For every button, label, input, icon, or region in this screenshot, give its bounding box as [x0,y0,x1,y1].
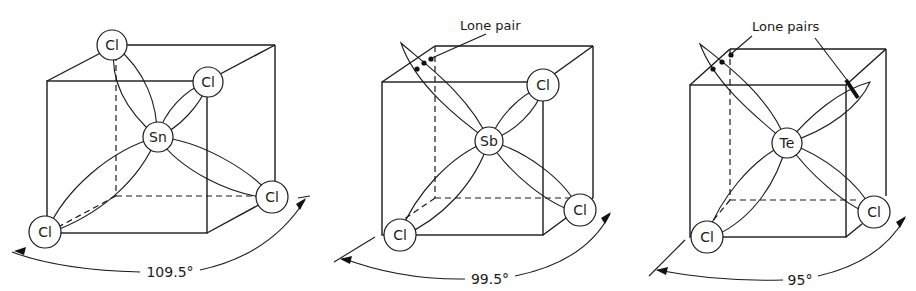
atom-cl-top: Cl [97,30,127,60]
atom-te-center: Te [772,128,802,158]
atom-cl-lower-left: Cl [691,221,723,253]
lone-pair-electron-icon [421,60,426,65]
cube-edge-tr [846,49,886,85]
atom-cl-upper-right: Cl [527,69,559,101]
svg-text:Cl: Cl [265,189,279,205]
lone-pair-label: Lone pairs [752,19,820,34]
cube-hidden-diagonal [712,200,730,222]
svg-text:Cl: Cl [867,204,881,220]
svg-text:Cl: Cl [700,229,714,245]
bond-angle-label: 109.5° [146,264,193,280]
lone-pair-electron-icon [846,80,858,98]
lobe-lower-left [707,143,787,238]
arrowhead-right-icon [296,198,306,210]
panel-sbcl3: Lone pair Cl Cl Cl Sb 99.5° [334,18,611,287]
lone-pair-electron-icon [710,66,715,71]
panel-sncl4: Cl Cl Cl Cl Sn 109.5° [12,30,310,280]
lone-pair-leader-line [731,36,752,54]
svg-text:Te: Te [779,135,795,151]
svg-text:Cl: Cl [105,37,119,53]
lobe-lower-right [489,141,578,212]
atom-cl-lower-right: Cl [858,196,890,228]
cube-hidden-diagonal [400,198,435,222]
lone-pair-electron-icon [414,66,419,71]
svg-text:Sn: Sn [149,129,167,145]
lobe-lower-left [400,141,489,236]
vsepr-cube-diagram: Cl Cl Cl Cl Sn 109.5° [0,0,916,291]
lobe-lone-pair [401,43,489,141]
lobe-lower-left [47,137,157,233]
atom-cl-upper-right: Cl [193,67,223,97]
atom-cl-lower-right: Cl [256,181,288,213]
svg-text:Cl: Cl [393,227,407,243]
atom-cl-lower-left: Cl [29,216,61,248]
lone-pair-electron-icon [719,59,724,64]
lobe-lone-pair [700,44,787,143]
cube-edge-tl [690,49,730,85]
svg-text:Cl: Cl [536,77,550,93]
arrowhead-left-icon [656,267,668,275]
svg-text:Cl: Cl [201,74,215,90]
lone-pair-electron-icon [728,52,733,57]
lobe-lower-right [157,137,272,198]
arrowhead-right-icon [601,212,611,224]
bond-angle-arc: 99.5° [334,212,611,287]
bond-angle-label: 95° [788,272,813,288]
lone-pair-label: Lone pair [460,18,521,33]
lobe-lower-right [787,143,872,214]
cube-edge-tl [382,46,435,82]
lone-pair-leader-line [815,38,847,80]
atom-sn-center: Sn [143,122,173,152]
cube-edge-br [846,224,862,237]
atom-cl-lower-right: Cl [564,194,596,226]
panel-tecl2: Lone pairs Cl Cl Te 95° [649,19,906,288]
atom-sb-center: Sb [475,127,503,155]
svg-text:Cl: Cl [38,224,52,240]
cube-front-face [382,82,543,235]
svg-text:Cl: Cl [573,202,587,218]
bond-angle-label: 99.5° [471,271,509,287]
atom-cl-lower-left: Cl [384,219,416,251]
arrowhead-right-icon [896,216,906,228]
svg-text:Sb: Sb [480,133,498,149]
